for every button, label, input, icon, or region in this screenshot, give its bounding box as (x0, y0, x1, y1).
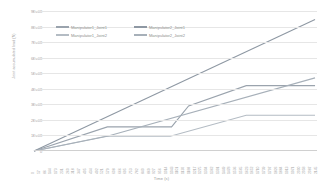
x-axis-tick-label: 869 (147, 168, 151, 174)
x-axis-tick-label: 318 (71, 168, 75, 174)
x-axis-tick-labels: 0578614417323126031834740543449252157960… (34, 152, 317, 174)
x-axis-tick-label: 1652 (250, 167, 254, 174)
x-axis-tick-label: 1362 (210, 167, 214, 174)
legend-label: Manipulator1_Joint1 (71, 25, 107, 30)
x-axis-tick-label: 1797 (268, 167, 272, 174)
x-axis-tick-label: 666 (118, 168, 122, 174)
x-axis-tick-label: 1101 (175, 167, 179, 174)
x-axis-tick-label: 260 (66, 168, 70, 174)
x-axis-tick-label: 2087 (308, 167, 312, 174)
legend-item[interactable]: Manipulator1_Joint2 (56, 31, 132, 39)
x-axis-tick-label: 1913 (285, 167, 289, 174)
line-chart: Joint accumulated load (N) 01E+082E+083E… (0, 0, 323, 187)
x-axis-tick-label: 0 (31, 172, 35, 174)
x-axis-tick-label: 1188 (187, 167, 191, 174)
legend-item[interactable]: Manipulator2_Joint1 (134, 23, 210, 31)
x-axis-tick-label: 1710 (256, 167, 260, 174)
x-axis-tick-label: 956 (158, 168, 162, 174)
x-axis-tick-label: 144 (48, 168, 52, 174)
x-axis-tick-label: 1623 (245, 167, 249, 174)
legend-label: Manipulator2_Joint1 (149, 25, 185, 30)
gridline (34, 104, 317, 105)
x-axis-tick-label: 231 (60, 168, 64, 174)
x-axis-tick-label: 2145 (314, 167, 318, 174)
legend-swatch-icon (56, 26, 69, 27)
legend-swatch-icon (134, 26, 147, 27)
x-axis-tick-label: 434 (89, 168, 93, 174)
x-axis-tick-label: 1275 (198, 167, 202, 174)
x-axis-tick-label: 1391 (216, 167, 220, 174)
gridline (34, 73, 317, 74)
x-axis-tick-label: 2058 (302, 167, 306, 174)
x-axis-tick-label: 579 (106, 168, 110, 174)
x-axis-tick-label: 1304 (204, 167, 208, 174)
x-axis-tick-label: 608 (112, 168, 116, 174)
gridline (34, 42, 317, 43)
x-axis-tick-label: 1884 (279, 167, 283, 174)
legend-item[interactable]: Manipulator1_Joint1 (56, 23, 132, 31)
legend-swatch-icon (134, 34, 147, 35)
gridline (34, 58, 317, 59)
x-axis-tick-label: 1478 (227, 167, 231, 174)
legend-label: Manipulator1_Joint2 (71, 33, 107, 38)
gridline (34, 120, 317, 121)
x-axis-line (34, 150, 317, 151)
chart-legend: Manipulator1_Joint1Manipulator2_Joint1Ma… (56, 23, 206, 39)
x-axis-tick-label: 1826 (274, 167, 278, 174)
gridline (34, 11, 317, 12)
legend-swatch-icon (56, 34, 69, 35)
x-axis-tick-label: 840 (141, 168, 145, 174)
x-axis-tick-label: 521 (100, 168, 104, 174)
x-axis-tick-label: 2000 (297, 167, 301, 174)
x-axis-tick-label: 1043 (170, 167, 174, 174)
y-axis-title: Joint accumulated load (N) (12, 14, 16, 98)
x-axis-tick-label: 1130 (181, 167, 185, 174)
x-axis-tick-label: 695 (123, 168, 127, 174)
gridline (34, 135, 317, 136)
x-axis-tick-label: 1536 (233, 167, 237, 174)
x-axis-tick-label: 1217 (193, 167, 197, 174)
x-axis-tick-label: 1565 (239, 167, 243, 174)
legend-item[interactable]: Manipulator2_Joint2 (134, 31, 210, 39)
x-axis-tick-label: 927 (152, 168, 156, 174)
legend-label: Manipulator2_Joint2 (149, 33, 185, 38)
x-axis-tick-label: 347 (77, 168, 81, 174)
x-axis-title: Time (s) (0, 176, 323, 181)
x-axis-tick-label: 1449 (222, 167, 226, 174)
x-axis-tick-label: 1014 (164, 167, 168, 174)
gridline (34, 89, 317, 90)
x-axis-tick-label: 405 (83, 168, 87, 174)
x-axis-tick-label: 173 (54, 168, 58, 174)
x-axis-tick-label: 86 (43, 170, 47, 174)
x-axis-tick-label: 57 (37, 170, 41, 174)
series-line (34, 86, 315, 151)
x-axis-tick-label: 753 (129, 168, 133, 174)
x-axis-tick-label: 1739 (262, 167, 266, 174)
x-axis-tick-label: 492 (95, 168, 99, 174)
x-axis-tick-label: 782 (135, 168, 139, 174)
x-axis-tick-label: 1971 (291, 167, 295, 174)
